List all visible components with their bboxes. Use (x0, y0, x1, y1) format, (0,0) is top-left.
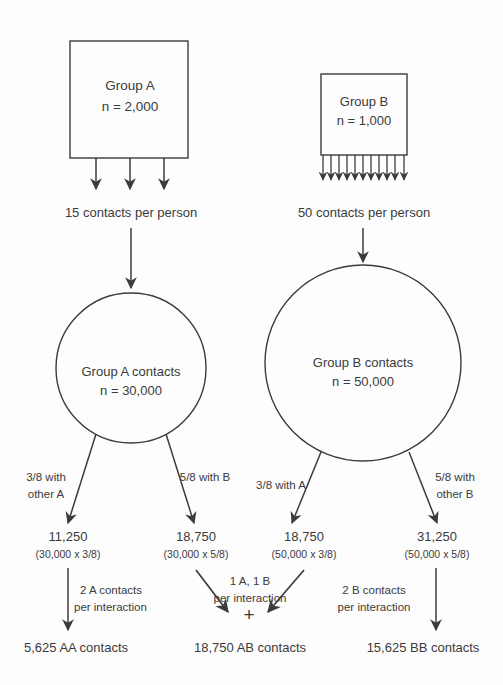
split-label-b-ab-line1: 3/8 with A (256, 478, 306, 492)
group-b-contacts-per-person: 50 contacts per person (298, 205, 430, 221)
split-calc-a-ab: (30,000 x 5/8) (164, 548, 229, 561)
rule-ab-line1: 1 A, 1 B (230, 574, 270, 588)
pool-a-n: n = 30,000 (100, 383, 162, 399)
rule-aa-line1: 2 A contacts (80, 583, 142, 597)
group-b-contact-arrows (323, 155, 404, 180)
split-value-b-ab: 18,750 (284, 529, 324, 545)
outcome-bb: 15,625 BB contacts (367, 640, 480, 656)
split-arrow-b-bb (409, 452, 437, 523)
split-value-b-bb: 31,250 (417, 529, 457, 545)
pool-b-label: Group B contacts (313, 355, 413, 371)
split-label-a-aa-line1: 3/8 with (26, 470, 66, 484)
group-a-contact-arrows (96, 158, 164, 189)
split-arrow-a-aa (68, 434, 96, 523)
pool-a-label: Group A contacts (81, 364, 180, 380)
pool-b-n: n = 50,000 (332, 374, 394, 390)
split-label-a-ab-line1: 5/8 with B (180, 470, 231, 484)
group-a-label: Group A (105, 78, 155, 95)
rule-bb-line2: per interaction (338, 600, 411, 614)
outcome-ab: 18,750 AB contacts (194, 640, 306, 656)
group-b-n: n = 1,000 (337, 113, 392, 129)
split-calc-a-aa: (30,000 x 3/8) (36, 548, 101, 561)
group-a-contacts-per-person: 15 contacts per person (65, 205, 197, 221)
split-label-b-bb-line2: other B (436, 487, 473, 501)
split-calc-b-bb: (50,000 x 5/8) (405, 548, 470, 561)
group-a-n: n = 2,000 (102, 99, 159, 116)
split-calc-b-ab: (50,000 x 3/8) (272, 548, 337, 561)
split-label-b-bb-line1: 5/8 with (435, 470, 475, 484)
plus-symbol: + (243, 603, 254, 627)
split-value-a-aa: 11,250 (49, 529, 88, 545)
outcome-aa: 5,625 AA contacts (24, 640, 128, 656)
split-value-a-ab: 18,750 (176, 529, 216, 545)
split-label-a-aa-line2: other A (28, 487, 64, 501)
rule-bb-line1: 2 B contacts (342, 583, 405, 597)
group-b-label: Group B (340, 94, 388, 110)
rule-aa-line2: per interaction (74, 600, 147, 614)
